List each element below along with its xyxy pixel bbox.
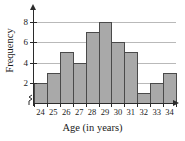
plot-area [34, 12, 176, 103]
bar [163, 73, 177, 103]
histogram-chart: 2468 2425262728293031323334 Age (in year… [0, 0, 185, 141]
y-axis-tick-label: 4 [14, 59, 28, 68]
axis-break-icon [27, 94, 39, 106]
y-axis-tick [30, 63, 37, 64]
bar [86, 32, 100, 103]
y-axis-tick-label: 6 [14, 38, 28, 47]
bar [111, 42, 125, 103]
bar [137, 93, 151, 103]
y-axis-tick [30, 42, 37, 43]
y-axis-tick-label: 2 [14, 79, 28, 88]
bar [73, 63, 87, 103]
y-axis-arrow-icon [30, 4, 36, 10]
y-axis-tick [30, 22, 37, 23]
bar [47, 73, 61, 103]
y-axis-title: Frequency [4, 15, 15, 87]
bar [60, 52, 74, 103]
x-axis-title: Age (in years) [0, 122, 185, 133]
y-axis-tick-label: 8 [14, 18, 28, 27]
x-axis-line [33, 103, 174, 104]
x-axis-tick-label: 34 [162, 107, 178, 117]
bar-series [34, 12, 176, 103]
bar [99, 22, 113, 103]
y-axis-tick [30, 83, 37, 84]
bar [124, 52, 138, 103]
bar [150, 83, 164, 103]
